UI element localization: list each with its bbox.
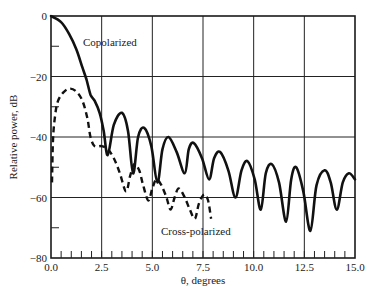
radiation-pattern-chart: 0.02.55.07.510.012.515.0 0−20−40−60−80 C… <box>0 0 376 294</box>
x-tick-label: 5.0 <box>145 261 159 273</box>
y-axis-title: Relative power, dB <box>7 95 19 180</box>
x-tick-label: 2.5 <box>95 261 109 273</box>
y-tick-label: −40 <box>30 131 48 143</box>
y-tick-labels: 0−20−40−60−80 <box>30 10 48 264</box>
x-axis-title: θ, degrees <box>181 274 225 286</box>
y-tick-label: −20 <box>30 71 48 83</box>
y-tick-label: −80 <box>30 252 48 264</box>
x-tick-labels: 0.02.55.07.510.012.515.0 <box>44 261 365 273</box>
x-tick-label: 7.5 <box>196 261 210 273</box>
y-tick-label: −60 <box>30 192 48 204</box>
x-tick-label: 15.0 <box>345 261 365 273</box>
grid-lines <box>51 16 355 258</box>
x-tick-label: 12.5 <box>295 261 315 273</box>
x-tick-label: 10.0 <box>244 261 264 273</box>
cross-polarized-annotation: Cross-polarized <box>161 225 231 237</box>
copolarized-annotation: Copolarized <box>83 36 137 48</box>
y-tick-label: 0 <box>42 10 48 22</box>
